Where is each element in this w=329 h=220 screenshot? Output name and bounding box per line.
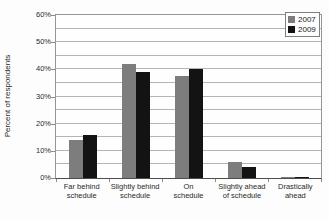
y-tick-40 <box>51 69 55 70</box>
plot-area <box>55 14 322 179</box>
x-tick-2 <box>162 179 163 182</box>
y-tick-50 <box>51 42 55 43</box>
x-category-label-line: schedule <box>108 192 161 201</box>
y-tick-label-30: 30% <box>18 92 51 102</box>
x-tick-3 <box>215 179 216 182</box>
x-category-label-line: of schedule <box>215 192 268 201</box>
y-tick-label-60: 60% <box>18 10 51 20</box>
x-axis: Far behindscheduleSlightly behindschedul… <box>55 183 322 200</box>
y-tick-30 <box>51 97 55 98</box>
bar-2009-far-behind-schedule <box>83 135 97 178</box>
y-tick-label-50: 50% <box>18 37 51 47</box>
x-tick-5 <box>321 179 322 182</box>
y-tick-label-20: 20% <box>18 119 51 129</box>
y-axis-title: Percent of respondents <box>3 36 13 156</box>
legend-label-2007: 2007 <box>298 15 316 24</box>
bar-group-slightly-behind-schedule <box>109 15 162 178</box>
x-category-label-far-behind-schedule: Far behindschedule <box>55 183 108 200</box>
bars-layer <box>56 15 321 178</box>
legend-swatch-2009 <box>288 26 295 33</box>
bar-2007-far-behind-schedule <box>69 140 83 178</box>
legend-swatch-2007 <box>288 16 295 23</box>
x-category-label-line: schedule <box>162 192 215 201</box>
legend: 20072009 <box>285 12 320 37</box>
y-tick-label-40: 40% <box>18 64 51 74</box>
legend-entry-2009: 2009 <box>288 25 316 34</box>
bar-group-slightly-ahead-of-schedule <box>215 15 268 178</box>
legend-label-2009: 2009 <box>298 25 316 34</box>
bar-group-drastically-ahead <box>268 15 321 178</box>
bar-chart-figure: Percent of respondents 0%10%20%30%40%50%… <box>0 0 329 220</box>
x-tick-0 <box>56 179 57 182</box>
bar-2007-drastically-ahead <box>281 177 295 178</box>
legend-entry-2007: 2007 <box>288 15 316 24</box>
bar-2009-slightly-behind-schedule <box>136 72 150 178</box>
y-tick-10 <box>51 151 55 152</box>
y-tick-0 <box>51 178 55 179</box>
x-tick-4 <box>268 179 269 182</box>
bar-group-on-schedule <box>162 15 215 178</box>
x-tick-1 <box>109 179 110 182</box>
x-category-label-line: schedule <box>55 192 108 201</box>
bar-2009-on-schedule <box>189 69 203 178</box>
x-category-label-on-schedule: Onschedule <box>162 183 215 200</box>
bar-2007-on-schedule <box>175 76 189 178</box>
bar-group-far-behind-schedule <box>56 15 109 178</box>
y-tick-20 <box>51 124 55 125</box>
x-category-label-line: ahead <box>269 192 322 201</box>
bar-2009-drastically-ahead <box>295 177 309 178</box>
y-tick-label-10: 10% <box>18 146 51 156</box>
bar-2007-slightly-ahead-of-schedule <box>228 162 242 178</box>
y-tick-60 <box>51 15 55 16</box>
bar-2007-slightly-behind-schedule <box>122 64 136 178</box>
bar-2009-slightly-ahead-of-schedule <box>242 167 256 178</box>
x-category-label-slightly-ahead-of-schedule: Slightly aheadof schedule <box>215 183 268 200</box>
y-tick-label-0: 0% <box>18 173 51 183</box>
x-category-label-slightly-behind-schedule: Slightly behindschedule <box>108 183 161 200</box>
x-category-label-drastically-ahead: Drasticallyahead <box>269 183 322 200</box>
